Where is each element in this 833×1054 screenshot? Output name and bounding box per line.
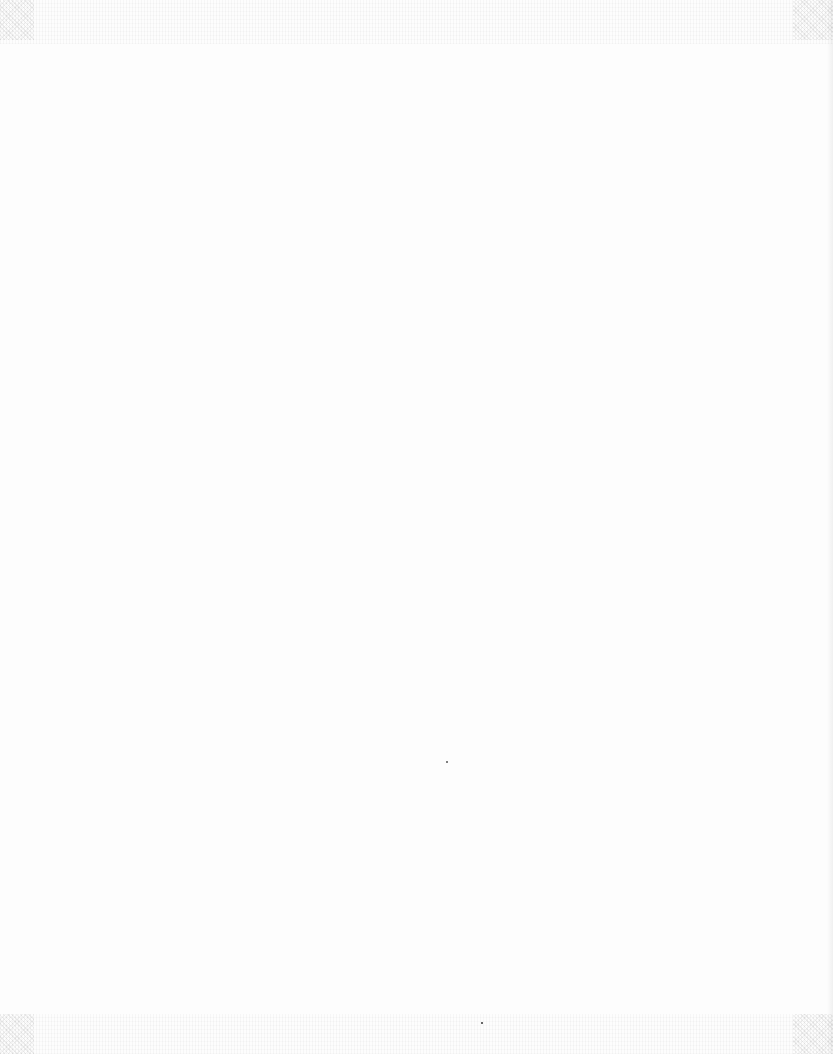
- scan-noise-corner-bottom-left: [0, 1014, 34, 1054]
- scan-shadow-right-edge: [827, 0, 833, 1054]
- scan-noise-top-band: [0, 0, 833, 44]
- dust-speck: [481, 1022, 483, 1024]
- scan-noise-corner-top-left: [0, 0, 34, 40]
- dust-speck: [446, 761, 448, 763]
- scan-noise-bottom-band: [0, 1014, 833, 1054]
- blank-scanned-page: [0, 0, 833, 1054]
